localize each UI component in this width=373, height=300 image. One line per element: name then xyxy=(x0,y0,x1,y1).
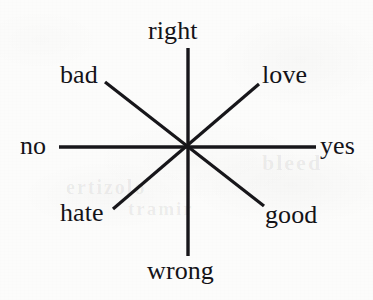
figure-canvas: bleed ertizolo tramir right love bad yes… xyxy=(0,0,373,300)
axis-label-good: good xyxy=(265,202,317,228)
axis-label-wrong: wrong xyxy=(147,258,214,284)
axis-label-right: right xyxy=(148,18,198,44)
axis-label-no: no xyxy=(20,133,46,159)
axis-label-bad: bad xyxy=(60,62,98,88)
axis-label-love: love xyxy=(262,62,307,88)
axis-label-yes: yes xyxy=(320,133,355,159)
axes-svg xyxy=(0,0,373,300)
axis-label-hate: hate xyxy=(60,200,104,226)
